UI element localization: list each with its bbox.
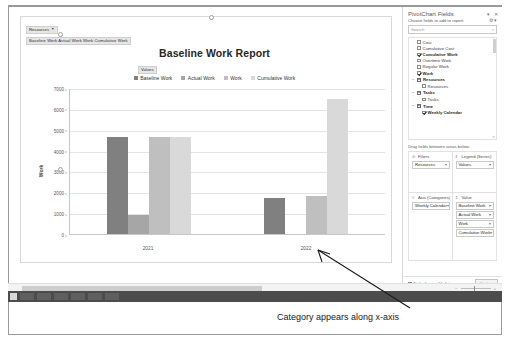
excel-window: Resources ▼ Baseline Work Actual Work Wo… [8, 6, 502, 291]
expander-icon[interactable]: − [411, 91, 415, 95]
taskbar-item[interactable] [71, 293, 85, 300]
checkbox-icon[interactable] [417, 40, 421, 44]
resources-filter-button[interactable]: Resources ▼ [26, 26, 58, 34]
search-icon[interactable]: ⌕ [492, 27, 494, 32]
area-legend-series[interactable]: ‖Legend (Series)Values▾ [453, 152, 497, 193]
checkbox-icon[interactable] [417, 65, 421, 69]
zoom-slider-track[interactable] [461, 288, 491, 289]
area-field-pill[interactable]: Cumulative Work▾ [456, 229, 495, 237]
chevron-down-icon[interactable]: ▾ [489, 204, 491, 208]
area-field-pill[interactable]: Actual Work▾ [456, 211, 495, 219]
chevron-down-icon[interactable]: ▾ [445, 163, 447, 167]
zoom-out-icon[interactable]: − [455, 286, 457, 291]
windows-taskbar[interactable] [8, 291, 502, 302]
start-button-icon[interactable] [10, 293, 17, 300]
close-icon[interactable]: ✕ [494, 11, 498, 17]
field-group-header[interactable]: −Resources [409, 76, 496, 83]
selection-handle-top[interactable] [209, 15, 214, 20]
bar[interactable] [149, 137, 170, 234]
checkbox-icon[interactable] [422, 111, 426, 115]
search-input[interactable]: Search ⌕ [408, 25, 497, 34]
values-field-button[interactable]: Values [138, 66, 157, 74]
selection-handle-left[interactable] [58, 32, 63, 37]
bar[interactable] [306, 196, 327, 234]
chevron-down-icon: ▼ [51, 26, 55, 33]
area-field-pill-label: Actual Work [459, 212, 482, 217]
checkbox-icon[interactable] [417, 53, 421, 57]
chevron-down-icon[interactable]: ▾ [447, 204, 449, 208]
legend-item-2: Work [224, 75, 242, 81]
areas-caption: Drag fields between areas below: [408, 144, 497, 149]
bars-layer[interactable] [70, 89, 385, 234]
area-field-pill-label: Resources [415, 162, 435, 167]
field-group-header[interactable]: −Tasks [409, 89, 496, 96]
horizontal-scrollbar-thumb[interactable] [22, 286, 262, 291]
field-list-scroll-down-icon[interactable]: ▾ [493, 135, 496, 139]
field-group-header[interactable]: −Time [409, 103, 496, 110]
frame-bottom-rule [8, 334, 502, 335]
bar-group-2021[interactable] [70, 89, 228, 234]
legend-swatch-icon [134, 76, 138, 80]
zoom-slider-knob[interactable] [474, 286, 476, 291]
chevron-down-icon[interactable]: ▾ [489, 213, 491, 217]
selection-handle-bottom-left[interactable] [58, 167, 63, 172]
gear-icon[interactable]: ⚙ [489, 18, 493, 23]
area-title: Legend (Series) [462, 154, 492, 159]
areas-grid[interactable]: ✇FiltersResources▾‖Legend (Series)Values… [408, 151, 497, 261]
area-filters[interactable]: ✇FiltersResources▾ [409, 152, 453, 193]
y-axis-tick-label: 4000 [54, 149, 64, 154]
area-field-pill[interactable]: Baseline Work▾ [456, 202, 495, 210]
area-field-pill-label: Work [459, 221, 469, 226]
field-label: Cost [423, 40, 432, 45]
collapse-icon[interactable]: ▾ [487, 11, 490, 17]
field-list[interactable]: CostCumulative CostCumulative WorkOverti… [408, 37, 497, 140]
area-values[interactable]: ΣValueBaseline Work▾Actual Work▾Work▾Cum… [453, 193, 497, 260]
bar-group-2022[interactable] [228, 89, 386, 234]
field-list-scrollbar-thumb[interactable] [493, 39, 496, 53]
area-title: Filters [418, 154, 429, 159]
chevron-down-icon[interactable]: ▾ [489, 222, 491, 226]
checkbox-icon[interactable] [417, 71, 421, 75]
annotation-arrow [300, 246, 420, 314]
screenshot-root: Resources ▼ Baseline Work Actual Work Wo… [0, 0, 510, 339]
plot-area [69, 89, 385, 235]
area-field-pill-label: Weekly Calendar [415, 203, 447, 208]
checkbox-icon[interactable] [422, 84, 426, 88]
series-field-buttons[interactable]: Baseline Work Actual Work Work Cumulativ… [26, 37, 131, 45]
field-checkbox-row[interactable]: Weekly Calendar [409, 110, 496, 116]
taskbar-item[interactable] [105, 293, 119, 300]
area-header: ΣValue [456, 195, 495, 200]
chevron-down-icon[interactable]: ▾ [494, 18, 497, 23]
checkbox-icon[interactable] [417, 59, 421, 63]
area-header: ‖Legend (Series) [456, 154, 495, 159]
taskbar-item[interactable] [54, 293, 68, 300]
area-field-pill[interactable]: Weekly Calendar▾ [412, 202, 450, 210]
area-field-pill[interactable]: Values▾ [456, 161, 495, 169]
bar[interactable] [170, 137, 191, 234]
taskbar-item[interactable] [20, 293, 34, 300]
chevron-down-icon[interactable]: ▾ [489, 163, 491, 167]
chevron-down-icon[interactable]: ▾ [490, 231, 492, 235]
taskbar-item[interactable] [88, 293, 102, 300]
pane-settings[interactable]: ⚙ ▾ [489, 18, 497, 23]
y-axis-ticks: 01000200030004000500060007000 [41, 89, 67, 253]
field-group-label: Tasks [423, 90, 435, 95]
bar[interactable] [264, 198, 285, 235]
bar[interactable] [327, 99, 348, 234]
table-icon [417, 104, 421, 108]
area-field-pill[interactable]: Work▾ [456, 220, 495, 228]
chart-sheet-canvas[interactable]: Resources ▼ Baseline Work Actual Work Wo… [9, 7, 402, 269]
legend-item-label: Actual Work [188, 75, 215, 81]
annotation-text: Category appears along x-axis [277, 312, 399, 322]
legend-swatch-icon [181, 76, 185, 80]
area-field-pill[interactable]: Resources▾ [412, 161, 450, 169]
expander-icon[interactable]: − [411, 104, 415, 108]
zoom-in-icon[interactable]: + [494, 286, 496, 291]
bar[interactable] [128, 215, 149, 234]
checkbox-icon[interactable] [422, 98, 426, 102]
horizontal-scrollbar[interactable]: − + [8, 283, 502, 291]
taskbar-item[interactable] [37, 293, 51, 300]
expander-icon[interactable]: − [411, 78, 415, 82]
checkbox-icon[interactable] [417, 46, 421, 50]
bar[interactable] [107, 137, 128, 234]
